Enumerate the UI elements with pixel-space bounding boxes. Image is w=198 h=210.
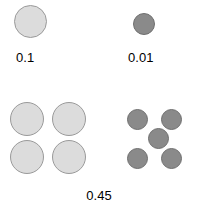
light-circle [52, 140, 86, 174]
group-top-right: 0.01 [99, 0, 198, 70]
value-label-top-right: 0.01 [128, 51, 154, 65]
figure-canvas: 0.1 0.01 0.45 [0, 0, 198, 210]
value-label-bottom: 0.45 [0, 189, 198, 203]
dark-circle [161, 109, 182, 130]
light-circle [10, 140, 44, 174]
dark-circle [127, 109, 148, 130]
group-top-left: 0.1 [0, 0, 99, 70]
dark-circle [148, 128, 169, 149]
light-circle [10, 102, 44, 136]
dark-circle [161, 148, 182, 169]
dark-circle [127, 148, 148, 169]
light-circle [14, 5, 47, 38]
group-bottom-left-grid [0, 96, 99, 182]
dark-circle [133, 13, 155, 35]
value-label-top-left: 0.1 [16, 51, 34, 65]
group-bottom-right-quincunx [99, 96, 198, 182]
light-circle [52, 102, 86, 136]
